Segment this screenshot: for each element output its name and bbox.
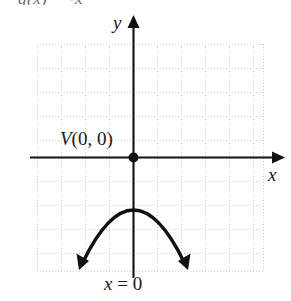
vertex-label-name: V xyxy=(60,128,72,149)
y-axis xyxy=(128,15,140,278)
y-axis-label: y xyxy=(113,13,121,32)
axis-of-symmetry-equation-rest: = 0 xyxy=(112,273,142,294)
vertex-label: V(0, 0) xyxy=(60,129,113,148)
parabola-figure: g(x) = -x² xyxy=(0,0,291,301)
vertex-dot xyxy=(129,153,139,163)
coordinate-plane-graphic xyxy=(0,0,291,301)
x-axis-arrowhead xyxy=(272,152,285,164)
vertex-label-coords: (0, 0) xyxy=(72,128,113,149)
x-axis-label: x xyxy=(268,165,276,184)
y-axis-arrowhead xyxy=(128,15,140,28)
axis-of-symmetry-label: x = 0 xyxy=(104,274,142,293)
